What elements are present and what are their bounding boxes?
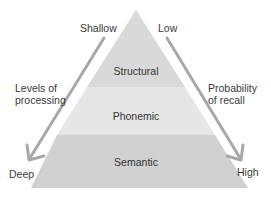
levels-of-processing-label-line1: Levels of <box>15 82 57 94</box>
layer-label-phonemic: Phonemic <box>86 110 186 122</box>
deep-label: Deep <box>9 168 34 180</box>
high-label: High <box>237 166 259 178</box>
shallow-label: Shallow <box>80 22 117 34</box>
layer-label-structural: Structural <box>86 65 186 77</box>
layer-label-semantic: Semantic <box>86 156 186 168</box>
probability-of-recall-label-line2: of recall <box>208 94 245 106</box>
low-label: Low <box>158 22 177 34</box>
levels-of-processing-label-line2: processing <box>15 94 66 106</box>
probability-of-recall-label-line1: Probability <box>208 82 257 94</box>
